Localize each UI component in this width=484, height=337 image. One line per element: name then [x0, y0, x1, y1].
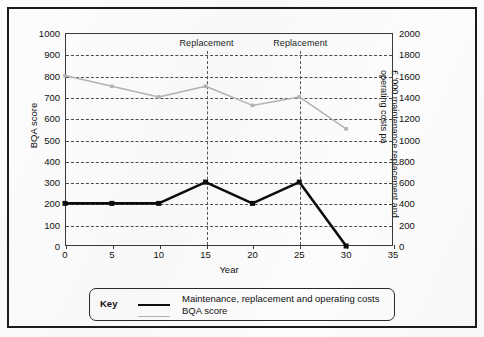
- x-axis-tick-label: 15: [200, 249, 211, 260]
- data-point-marker: [157, 95, 161, 99]
- y-axis-right-ticks: 0200400600800100012001400160018002000: [399, 33, 439, 246]
- legend-label-costs: Maintenance, replacement and operating c…: [182, 293, 380, 304]
- legend-box: Key Maintenance, replacement and operati…: [89, 288, 395, 321]
- x-axis-tick-label: 25: [294, 249, 305, 260]
- data-point-marker: [156, 201, 161, 206]
- y-axis-left-tick-label: 300: [44, 177, 60, 188]
- data-point-marker: [344, 127, 348, 131]
- data-point-marker: [63, 201, 68, 206]
- data-point-marker: [109, 201, 114, 206]
- series-line-costs: [65, 182, 346, 246]
- x-axis-ticks: 05101520253035: [65, 249, 393, 263]
- data-point-marker: [251, 104, 255, 108]
- y-axis-left-title: BQA score: [28, 71, 39, 181]
- y-axis-right-tick-label: 1200: [399, 113, 420, 124]
- y-axis-left-tick-label: 700: [44, 91, 60, 102]
- x-axis-tick-label: 20: [247, 249, 258, 260]
- data-point-marker: [297, 95, 301, 99]
- y-axis-left-tick-label: 100: [44, 219, 60, 230]
- data-point-marker: [250, 201, 255, 206]
- y-axis-left-tick-label: 800: [44, 70, 60, 81]
- y-axis-right-tick-label: 1800: [399, 49, 420, 60]
- y-axis-left-tick-label: 600: [44, 113, 60, 124]
- x-axis-tick-label: 30: [341, 249, 352, 260]
- y-axis-right-tick-label: 1000: [399, 134, 420, 145]
- y-axis-right-tick-label: 200: [399, 219, 415, 230]
- y-axis-left-ticks: 01002003004005006007008009001000: [20, 33, 60, 246]
- y-axis-right-tick-label: 400: [399, 198, 415, 209]
- data-point-marker: [344, 244, 349, 249]
- y-axis-right-tick-label: 600: [399, 177, 415, 188]
- y-axis-left-tick-label: 400: [44, 155, 60, 166]
- y-axis-left-tick-label: 900: [44, 49, 60, 60]
- legend-swatch-bqa: [138, 316, 170, 317]
- data-point-marker: [110, 84, 114, 88]
- y-axis-left-tick-label: 500: [44, 134, 60, 145]
- series-layer: [65, 33, 393, 246]
- y-axis-right-tick-label: 0: [399, 241, 404, 252]
- data-point-marker: [204, 84, 208, 88]
- x-axis-tick-label: 0: [62, 249, 67, 260]
- data-point-marker: [297, 180, 302, 185]
- chart-figure: 01002003004005006007008009001000 0200400…: [0, 0, 484, 337]
- y-axis-left-tick-label: 200: [44, 198, 60, 209]
- data-point-marker: [203, 180, 208, 185]
- legend-swatch-costs: [138, 304, 170, 306]
- data-point-marker: [63, 74, 67, 78]
- series-line-bqa: [65, 76, 346, 129]
- legend-label-bqa: BQA score: [182, 305, 227, 316]
- y-axis-right-tick-label: 2000: [399, 28, 420, 39]
- x-axis-tick-label: 10: [153, 249, 164, 260]
- y-axis-left-tick-label: 0: [55, 241, 60, 252]
- legend-key-label: Key: [100, 298, 117, 309]
- x-axis-title: Year: [65, 264, 393, 275]
- x-axis-tick-label: 5: [109, 249, 114, 260]
- y-axis-right-tick-label: 800: [399, 155, 415, 166]
- y-axis-right-tick-label: 1600: [399, 70, 420, 81]
- y-axis-left-tick-label: 1000: [39, 28, 60, 39]
- x-axis-tick-label: 35: [388, 249, 399, 260]
- y-axis-right-tick-label: 1400: [399, 91, 420, 102]
